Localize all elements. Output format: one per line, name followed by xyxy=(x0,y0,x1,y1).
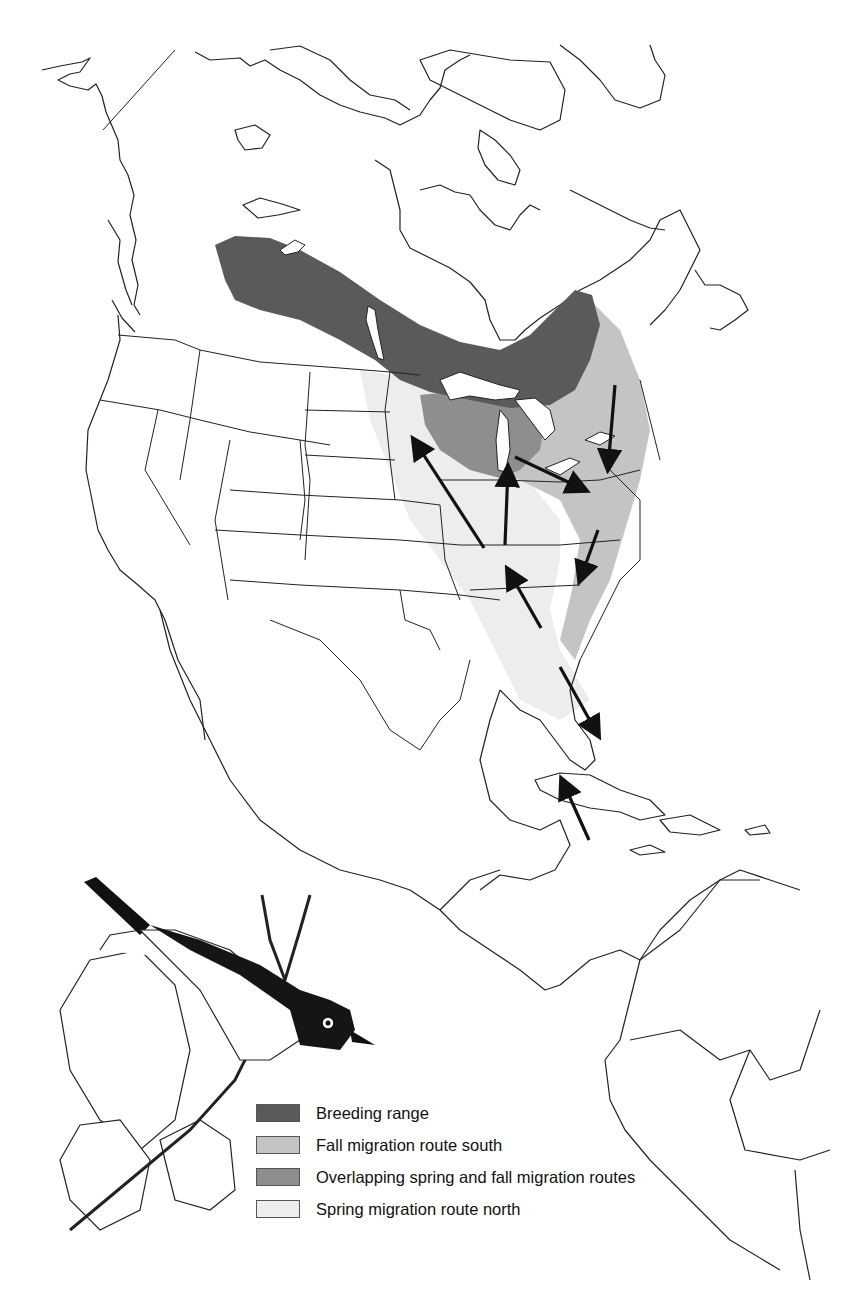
legend-swatch-overlap xyxy=(256,1168,300,1186)
caribbean-islands xyxy=(535,773,770,855)
legend-label: Fall migration route south xyxy=(316,1136,502,1155)
arctic-islands xyxy=(195,45,665,218)
breeding-range-area xyxy=(215,236,600,408)
legend-item-fall: Fall migration route south xyxy=(256,1132,635,1158)
legend-item-overlap: Overlapping spring and fall migration ro… xyxy=(256,1164,635,1190)
bird-tail xyxy=(84,877,150,935)
legend-label: Spring migration route north xyxy=(316,1200,521,1219)
alaska-coast xyxy=(42,50,175,332)
legend-swatch-fall xyxy=(256,1136,300,1154)
mexico-central-america xyxy=(160,610,760,990)
bird-pupil xyxy=(326,1021,331,1026)
legend-label: Breeding range xyxy=(316,1104,429,1123)
legend-item-spring: Spring migration route north xyxy=(256,1196,635,1222)
legend-swatch-spring xyxy=(256,1200,300,1218)
bird-beak xyxy=(350,1030,375,1045)
legend: Breeding range Fall migration route sout… xyxy=(256,1100,635,1228)
south-america xyxy=(605,870,830,1280)
legend-label: Overlapping spring and fall migration ro… xyxy=(316,1168,635,1187)
legend-swatch-breeding xyxy=(256,1104,300,1122)
legend-item-breeding: Breeding range xyxy=(256,1100,635,1126)
